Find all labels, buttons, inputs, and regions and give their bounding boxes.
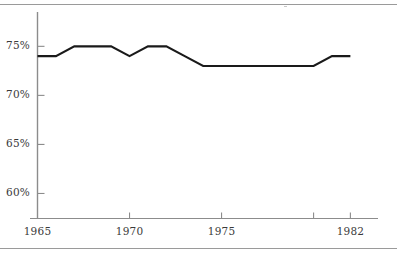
x-axis-ticks [130, 213, 351, 219]
x-axis-tick-label: 1965 [24, 226, 52, 237]
data-series-line [38, 46, 351, 66]
y-axis-label-group: 75% 70% 65% 60% [0, 0, 30, 256]
x-axis-tick-label: 1975 [208, 226, 236, 237]
y-axis-tick-label: 60% [0, 187, 30, 198]
line-chart-plot [0, 0, 397, 256]
y-axis-tick-label: 75% [0, 40, 30, 51]
y-axis-ticks [38, 46, 45, 193]
y-axis-tick-label: 70% [0, 89, 30, 100]
y-axis-tick-label: 65% [0, 138, 30, 149]
x-axis-tick-label: 1982 [337, 226, 365, 237]
axis-lines [30, 12, 378, 219]
x-axis-tick-label: 1970 [116, 226, 144, 237]
chart-figure: 75% 70% 65% 60% 1965 1970 1975 1982 [0, 0, 397, 256]
